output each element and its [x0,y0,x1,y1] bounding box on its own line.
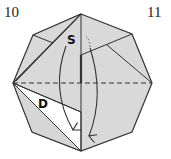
origami-diagram: S D [0,0,171,159]
label-d: D [38,97,48,111]
label-s: S [67,33,76,47]
